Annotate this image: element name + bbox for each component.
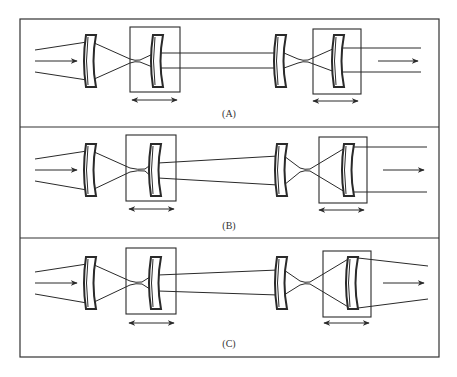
lens-2 xyxy=(149,144,161,196)
lens-1 xyxy=(84,257,96,309)
optical-zoom-diagram: (A) (B) xyxy=(0,0,457,377)
lens-4 xyxy=(342,144,354,196)
panel-label-c: (C) xyxy=(222,338,235,350)
lens-2 xyxy=(149,257,161,309)
lens-2 xyxy=(151,35,163,87)
lens-4 xyxy=(346,257,358,309)
lens-4 xyxy=(332,35,344,87)
panel-label-b: (B) xyxy=(222,220,235,232)
lens-1 xyxy=(84,144,96,196)
lens-3 xyxy=(274,35,286,87)
lens-3 xyxy=(275,257,287,309)
panel-label-a: (A) xyxy=(222,108,236,120)
figure-frame xyxy=(20,19,439,357)
lens-1 xyxy=(84,35,96,87)
lens-3 xyxy=(275,144,287,196)
